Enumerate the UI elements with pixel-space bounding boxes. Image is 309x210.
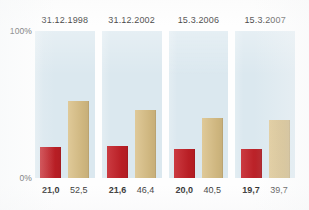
- bar-tan: [202, 118, 223, 178]
- bar-tan: [68, 101, 89, 178]
- value-label-tan: 52,5: [68, 182, 89, 198]
- value-label-tan: 40,5: [202, 182, 223, 198]
- column-header-date: 31.12.2002: [102, 12, 162, 28]
- value-label-tan: 46,4: [135, 182, 156, 198]
- y-axis-label-100: 100%: [0, 27, 32, 36]
- bar-group: [235, 31, 295, 178]
- value-label-red: 19,7: [241, 182, 262, 198]
- plot-area: [35, 31, 295, 178]
- value-labels-row: 21,0 52,5 21,6 46,4 20,0 40,5 19,7 39,7: [35, 182, 295, 198]
- chart-panel: [102, 31, 162, 178]
- bar-group: [169, 31, 229, 178]
- bar-red: [40, 147, 61, 178]
- bar-tan: [269, 120, 290, 178]
- value-label-tan: 39,7: [269, 182, 290, 198]
- bar-chart: 100% 0% 31.12.1998 31.12.2002 15.3.2006 …: [0, 0, 309, 210]
- column-header-date: 31.12.1998: [35, 12, 95, 28]
- chart-panel: [35, 31, 95, 178]
- value-pair: 19,7 39,7: [235, 182, 295, 198]
- chart-panel: [169, 31, 229, 178]
- bar-group: [102, 31, 162, 178]
- column-header-date: 15.3.2007: [235, 12, 295, 28]
- bar-red: [241, 149, 262, 178]
- value-pair: 21,0 52,5: [35, 182, 95, 198]
- value-pair: 20,0 40,5: [169, 182, 229, 198]
- column-header-date: 15.3.2006: [169, 12, 229, 28]
- bar-tan: [135, 110, 156, 178]
- chart-headers-row: 31.12.1998 31.12.2002 15.3.2006 15.3.200…: [35, 12, 295, 28]
- value-label-red: 20,0: [174, 182, 195, 198]
- value-label-red: 21,6: [107, 182, 128, 198]
- y-axis-label-0: 0%: [0, 174, 32, 183]
- bar-red: [174, 149, 195, 178]
- chart-panel: [235, 31, 295, 178]
- value-pair: 21,6 46,4: [102, 182, 162, 198]
- bar-red: [107, 146, 128, 178]
- value-label-red: 21,0: [40, 182, 61, 198]
- bar-group: [35, 31, 95, 178]
